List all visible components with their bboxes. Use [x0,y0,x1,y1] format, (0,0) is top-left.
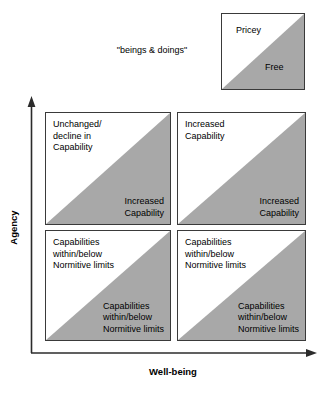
y-axis-label: Agency [8,203,19,253]
x-axis-label: Well-being [118,366,228,377]
legend-key-box: Pricey Free [221,13,305,90]
y-axis-arrowhead [28,96,36,107]
quadrant-bottom-left: Capabilities within/below Normitive limi… [45,230,171,341]
x-axis-arrowhead [306,349,317,357]
quadrant-lower-text: Increased Capability [259,196,299,219]
legend-label-pricey: Pricey [236,25,261,36]
quadrant-bottom-right: Capabilities within/below Normitive limi… [177,230,306,341]
quadrant-lower-text: Capabilities within/below Normitive limi… [103,301,164,336]
legend-shaded-triangle [222,14,304,89]
quadrant-top-right: Increased Capability Increased Capabilit… [177,112,306,225]
quadrant-lower-text: Increased Capability [124,196,164,219]
quadrant-lower-text: Capabilities within/below Normitive limi… [238,301,299,336]
quadrant-upper-text: Capabilities within/below Normitive limi… [53,237,114,272]
quadrant-upper-text: Capabilities within/below Normitive limi… [185,237,246,272]
diagram-caption: "beings & doings" [97,45,207,56]
quadrant-upper-text: Increased Capability [185,119,225,142]
legend-label-free: Free [265,62,284,73]
quadrant-upper-text: Unchanged/ decline in Capability [53,119,102,154]
quadrant-top-left: Unchanged/ decline in Capability Increas… [45,112,171,225]
capability-matrix-diagram: Pricey Free "beings & doings" Agency Wel… [0,0,326,394]
